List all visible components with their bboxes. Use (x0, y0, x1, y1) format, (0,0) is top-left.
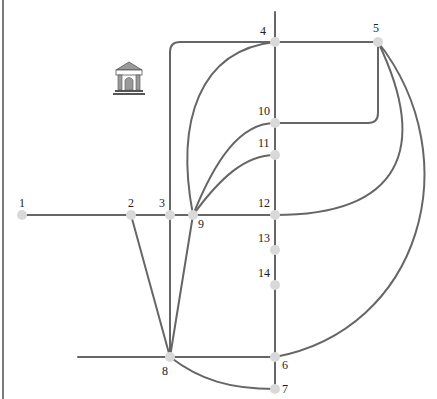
node-7 (270, 384, 280, 394)
node-label-2: 2 (128, 196, 134, 210)
node-5 (373, 37, 383, 47)
node-3 (165, 210, 175, 220)
edge-line (187, 42, 275, 215)
edge-line (275, 42, 402, 215)
network-diagram: 1234567891011121314 (0, 0, 437, 399)
edge-line (275, 42, 378, 123)
node-2 (126, 210, 136, 220)
node-10 (270, 118, 280, 128)
node-4 (270, 37, 280, 47)
node-label-6: 6 (282, 358, 288, 372)
edge-line (275, 42, 424, 357)
node-label-12: 12 (258, 196, 270, 210)
node-14 (270, 280, 280, 290)
node-12 (270, 210, 280, 220)
node-label-14: 14 (258, 266, 270, 280)
node-9 (188, 210, 198, 220)
edges-layer (22, 12, 424, 389)
node-13 (270, 245, 280, 255)
node-1 (17, 210, 27, 220)
node-label-7: 7 (282, 382, 288, 396)
bank-building-icon (113, 62, 145, 95)
node-label-5: 5 (373, 21, 379, 35)
edge-line (170, 215, 193, 357)
node-8 (165, 352, 175, 362)
edge-line (131, 215, 170, 357)
node-label-8: 8 (162, 364, 168, 378)
node-label-3: 3 (159, 196, 165, 210)
edge-line (170, 357, 275, 389)
node-11 (270, 150, 280, 160)
node-label-4: 4 (260, 24, 266, 38)
node-label-13: 13 (258, 231, 270, 245)
node-label-10: 10 (258, 104, 270, 118)
node-6 (270, 352, 280, 362)
node-label-1: 1 (19, 196, 25, 210)
node-label-9: 9 (198, 217, 204, 231)
node-label-11: 11 (258, 136, 270, 150)
